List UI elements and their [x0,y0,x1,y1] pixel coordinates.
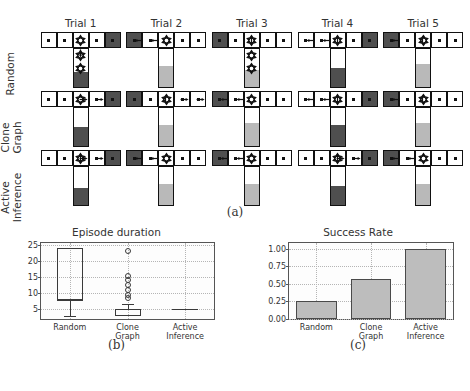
y-tick-label: 15 [28,272,38,281]
maze-stem [415,107,431,147]
action-arrow-left-icon [134,36,143,45]
maze-cell-open [89,32,105,48]
action-arrow-left-icon [322,36,331,45]
t-maze-diagram [126,150,206,206]
cell-center-dot [149,98,152,101]
maze-cell-open [431,32,447,48]
action-arrow-left-icon [134,154,143,163]
agent-marker-icon [245,152,258,165]
action-arrow-left-icon [150,36,159,45]
action-arrow-up-icon [76,153,85,162]
agent-marker-icon [245,62,258,75]
y-tick-label: 10 [28,289,38,298]
maze-stem-fill [416,64,430,87]
maze-cell-open [228,32,244,48]
cell-center-dot [320,157,323,160]
maze-cell [209,89,295,147]
boxplot-outlier-point [125,273,131,279]
action-arrow-up-icon [418,35,427,44]
maze-cell-open [276,32,292,48]
maze-stem-fill [245,184,259,205]
cell-center-dot [454,39,457,42]
y-tick-label: 25 [28,240,38,249]
t-maze-diagram [383,150,463,206]
cell-center-dot [266,39,269,42]
x-tick-line1: Active [173,323,198,332]
bar [351,279,391,319]
action-arrow-left-icon [407,154,416,163]
maze-cell [209,148,295,206]
y-tick-mark [38,261,41,262]
maze-cell-wall [105,150,121,166]
maze-cell-open [260,150,276,166]
action-arrow-up-icon [418,94,427,103]
cell-center-dot [368,98,371,101]
maze-stem [330,107,346,147]
maze-cell-open [260,32,276,48]
trial-header: Trial 2 [124,16,210,30]
action-arrow-up-icon [161,94,170,103]
cell-center-dot [47,39,50,42]
boxplot-cap-upper [122,304,134,305]
maze-cell [124,148,210,206]
y-tick-label: 0.00 [268,315,286,324]
maze-stem [244,166,260,206]
t-maze-diagram [212,150,292,206]
x-tick-label: Random [300,323,333,332]
boxplot-box [57,248,83,300]
row-label-random: Random [5,45,17,103]
action-arrow-left-icon [236,95,245,104]
y-tick-label: 0.75 [268,262,286,271]
action-arrow-left-icon [306,95,315,104]
maze-cell-open [57,91,73,107]
panel-a-caption: (a) [0,205,470,219]
agent-marker-icon [245,49,258,62]
cell-center-dot [111,98,114,101]
cell-center-dot [438,39,441,42]
x-tick-label: Random [53,323,86,332]
cell-center-dot [368,39,371,42]
agent-marker-icon [74,34,87,47]
cell-center-dot [266,157,269,160]
maze-stem-fill [74,188,88,205]
maze-cell-open [346,91,362,107]
y-tick-mark [38,293,41,294]
action-arrow-right-icon [79,95,88,104]
cell-center-dot [282,98,285,101]
cell-center-dot [266,98,269,101]
maze-cell-open [260,91,276,107]
y-tick-mark [286,319,289,320]
maze-stem-fill [159,184,173,205]
action-arrow-left-icon [306,36,315,45]
t-maze-diagram [126,32,206,88]
maze-cell [38,89,124,147]
maze-cell-open [447,32,463,48]
action-arrow-left-icon [220,95,229,104]
figure-root: Trial 1 Trial 2 Trial 3 Trial 4 Trial 5 … [0,0,470,391]
maze-cell [38,148,124,206]
cell-center-dot [63,39,66,42]
panel-c-success-rate: Success Rate 0.000.250.500.751.00RandomC… [252,226,464,356]
maze-cell-open [447,91,463,107]
maze-cell-open [399,91,415,107]
maze-cell-open [57,32,73,48]
maze-stem-fill [331,125,345,146]
maze-stem-fill [159,125,173,146]
t-maze-diagram [383,91,463,147]
maze-cell-open [190,150,206,166]
action-arrow-left-icon [322,95,331,104]
maze-cell-open [174,32,190,48]
boxplot-cap-lower [64,316,76,317]
row-label-clone-graph: Clone Graph [0,109,23,167]
maze-cell-open [57,150,73,166]
maze-cell-wall [212,32,228,48]
boxplot-flat-line [172,309,198,310]
row-label-line2: Graph [11,109,23,167]
maze-stem [73,107,89,147]
maze-cell [124,89,210,147]
boxplot-axes: 510152025RandomCloneGraphActiveInference [40,242,215,320]
maze-cell-open [431,91,447,107]
action-arrow-down-icon [76,49,85,58]
cell-center-dot [234,39,237,42]
cell-center-dot [47,157,50,160]
